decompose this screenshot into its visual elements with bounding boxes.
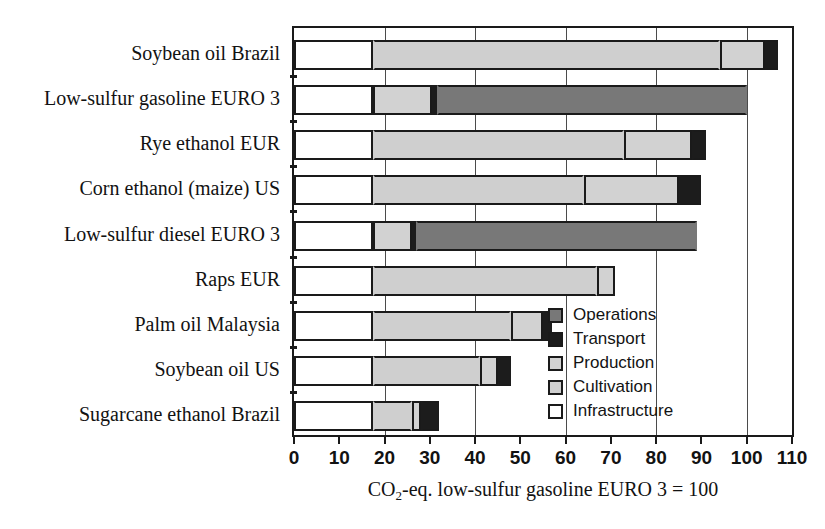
x-axis-tick xyxy=(746,437,748,444)
category-label: Corn ethanol (maize) US xyxy=(0,178,280,198)
legend-item: Operations xyxy=(548,304,738,326)
bar-segment-cultivation xyxy=(373,175,584,205)
x-axis-tick-label: 0 xyxy=(289,447,300,468)
bar-segment-operations xyxy=(437,85,747,115)
category-label: Sugarcane ethanol Brazil xyxy=(0,404,280,424)
y-axis-tick xyxy=(290,346,297,349)
bar-segment-production xyxy=(480,356,498,386)
bar-segment-cultivation xyxy=(373,401,411,431)
bar-segment-transport xyxy=(765,40,779,70)
bar-segment-cultivation xyxy=(373,311,511,341)
x-axis-tick-label: 70 xyxy=(600,447,621,468)
category-label: Rye ethanol EUR xyxy=(0,133,280,153)
bar-segment-production xyxy=(373,221,411,251)
chart-legend: OperationsTransportProductionCultivation… xyxy=(548,304,738,424)
bar-segment-production xyxy=(624,130,692,160)
x-axis-tick xyxy=(338,437,340,444)
x-axis-tick-label: 60 xyxy=(555,447,576,468)
bar-segment-operations xyxy=(416,221,697,251)
legend-swatch-icon xyxy=(548,332,563,347)
bar-segment-cultivation xyxy=(373,40,719,70)
legend-swatch-icon xyxy=(548,308,563,323)
legend-label: Infrastructure xyxy=(573,402,673,420)
category-label: Soybean oil Brazil xyxy=(0,43,280,63)
bar-segment-infrastructure xyxy=(294,175,373,205)
x-axis-tick xyxy=(293,437,295,444)
legend-item: Infrastructure xyxy=(548,400,738,422)
bar-segment-infrastructure xyxy=(294,266,373,296)
y-axis-tick xyxy=(290,120,297,123)
bar-segment-infrastructure xyxy=(294,221,373,251)
category-label: Low-sulfur gasoline EURO 3 xyxy=(0,88,280,108)
x-axis-tick-label: 110 xyxy=(777,447,808,468)
bar-segment-cultivation xyxy=(373,266,597,296)
x-axis-title-prefix: CO xyxy=(368,478,396,500)
x-axis-title-subscript: 2 xyxy=(396,488,403,503)
bar-segment-production xyxy=(584,175,679,205)
x-axis-tick-label: 90 xyxy=(691,447,712,468)
y-axis-tick xyxy=(290,210,297,213)
bar-segment-transport xyxy=(498,356,512,386)
gridline xyxy=(747,28,748,435)
x-axis-tick xyxy=(474,437,476,444)
bar-segment-production xyxy=(373,85,432,115)
bar-segment-cultivation xyxy=(373,130,624,160)
category-label: Raps EUR xyxy=(0,269,280,289)
bar-segment-production xyxy=(597,266,615,296)
bar-segment-transport xyxy=(421,401,439,431)
x-axis-title-suffix: -eq. low-sulfur gasoline EURO 3 = 100 xyxy=(402,478,718,500)
legend-swatch-icon xyxy=(548,356,563,371)
bar-segment-production xyxy=(511,311,543,341)
x-axis-tick xyxy=(429,437,431,444)
bar-segment-transport xyxy=(692,130,706,160)
category-axis-labels: Soybean oil BrazilLow-sulfur gasoline EU… xyxy=(0,28,288,436)
bar-segment-infrastructure xyxy=(294,356,373,386)
stacked-bar-chart: Soybean oil BrazilLow-sulfur gasoline EU… xyxy=(0,0,825,529)
bar-segment-infrastructure xyxy=(294,401,373,431)
x-axis-tick-label: 80 xyxy=(646,447,667,468)
bar-segment-infrastructure xyxy=(294,85,373,115)
bar-segment-infrastructure xyxy=(294,311,373,341)
category-label: Low-sulfur diesel EURO 3 xyxy=(0,224,280,244)
bar-segment-production xyxy=(720,40,765,70)
x-axis-tick xyxy=(655,437,657,444)
bar-segment-infrastructure xyxy=(294,40,373,70)
x-axis-tick xyxy=(610,437,612,444)
x-axis-tick-label: 30 xyxy=(419,447,440,468)
bar-segment-transport xyxy=(679,175,702,205)
bar-segment-cultivation xyxy=(373,356,479,386)
x-axis-tick xyxy=(519,437,521,444)
x-axis-tick xyxy=(791,437,793,444)
legend-label: Operations xyxy=(573,306,656,324)
legend-label: Transport xyxy=(573,330,645,348)
y-axis-tick xyxy=(290,256,297,259)
x-axis-tick-label: 20 xyxy=(374,447,395,468)
bar-segment-infrastructure xyxy=(294,130,373,160)
legend-item: Transport xyxy=(548,328,738,350)
y-axis-tick xyxy=(290,75,297,78)
legend-item: Production xyxy=(548,352,738,374)
category-label: Palm oil Malaysia xyxy=(0,314,280,334)
legend-swatch-icon xyxy=(548,404,563,419)
bar-segment-production xyxy=(412,401,421,431)
x-axis-tick xyxy=(565,437,567,444)
x-axis-tick-label: 50 xyxy=(510,447,531,468)
x-axis-tick xyxy=(700,437,702,444)
legend-label: Cultivation xyxy=(573,378,652,396)
x-axis-tick-label: 10 xyxy=(329,447,350,468)
legend-label: Production xyxy=(573,354,654,372)
x-axis-tick-label: 100 xyxy=(731,447,763,468)
y-axis-tick xyxy=(290,165,297,168)
x-axis-tick-label: 40 xyxy=(465,447,486,468)
legend-swatch-icon xyxy=(548,380,563,395)
x-axis-title: CO2-eq. low-sulfur gasoline EURO 3 = 100 xyxy=(292,478,794,501)
x-axis-tick xyxy=(384,437,386,444)
legend-item: Cultivation xyxy=(548,376,738,398)
category-label: Soybean oil US xyxy=(0,359,280,379)
y-axis-tick xyxy=(290,391,297,394)
y-axis-tick xyxy=(290,301,297,304)
